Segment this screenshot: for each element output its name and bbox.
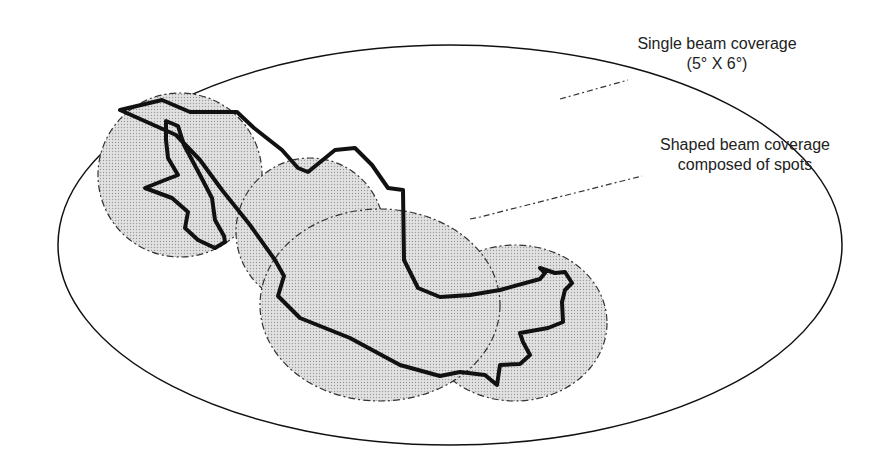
- single-beam-label-line1: Single beam coverage: [602, 34, 832, 54]
- shaped-beam-label-line2: composed of spots: [620, 155, 870, 175]
- single-beam-label: Single beam coverage (5° X 6°): [602, 34, 832, 74]
- single-beam-label-line2: (5° X 6°): [602, 54, 832, 74]
- leader-lines: [470, 80, 642, 219]
- shaped-beam-leader: [470, 176, 642, 219]
- single-beam-leader: [560, 80, 628, 99]
- shaped-beam-label: Shaped beam coverage composed of spots: [620, 135, 870, 175]
- shaped-beam-label-line1: Shaped beam coverage: [620, 135, 870, 155]
